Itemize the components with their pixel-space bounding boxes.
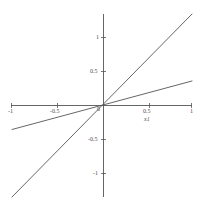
y-tick-label-one: 1 [96,34,99,40]
line-plot-figure: -1 -0.5 0 0.5 1 1 0.5 -0.5 -1 x1 [0,0,202,206]
x-axis-label: x1 [144,116,150,122]
y-tick-label-neg-one: -1 [93,170,98,176]
y-tick-label-neg-half: -0.5 [88,136,98,142]
origin-label: 0 [97,106,100,112]
x-tick-label-one: 1 [190,108,193,114]
y-tick-label-half: 0.5 [90,68,98,74]
x-tick-label-half: 0.5 [143,108,151,114]
plot-canvas [0,0,202,206]
x-tick-label-neg-one: -1 [8,108,13,114]
x-tick-label-neg-half: -0.5 [50,108,60,114]
